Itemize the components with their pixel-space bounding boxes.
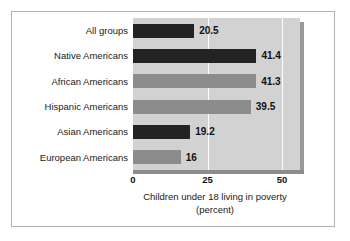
bar [133,150,181,164]
bar [133,74,256,88]
bar-value-label: 20.5 [199,18,218,43]
figure: All groups20.5Native Americans41.4Africa… [0,0,350,241]
bar-row: Asian Americans19.2 [0,119,350,144]
category-label: African Americans [0,69,128,94]
bar-value-label: 41.3 [261,69,280,94]
bar [133,49,256,63]
bar-value-label: 16 [186,145,197,170]
bar-value-label: 19.2 [195,119,214,144]
category-label: Asian Americans [0,119,128,144]
x-axis-title: Children under 18 living in poverty (per… [110,190,320,216]
x-tick-label: 50 [277,174,288,185]
bar [133,125,190,139]
bar-row: African Americans41.3 [0,69,350,94]
bar-value-label: 41.4 [261,43,280,68]
x-axis-title-line1: Children under 18 living in poverty [110,190,320,203]
x-tick-label: 0 [130,174,135,185]
category-label: Native Americans [0,43,128,68]
bar-row: Native Americans41.4 [0,43,350,68]
bar-row: Hispanic Americans39.5 [0,94,350,119]
bar [133,24,194,38]
x-tick-label: 25 [202,174,213,185]
bar [133,100,251,114]
bar-value-label: 39.5 [256,94,275,119]
x-axis-title-line2: (percent) [110,203,320,216]
bar-row: All groups20.5 [0,18,350,43]
bar-row: European Americans16 [0,145,350,170]
category-label: Hispanic Americans [0,94,128,119]
category-label: European Americans [0,145,128,170]
category-label: All groups [0,18,128,43]
